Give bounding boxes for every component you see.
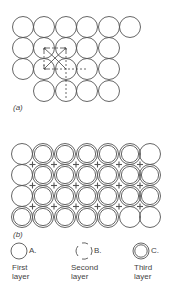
- sphere: [56, 17, 77, 38]
- sphere: [120, 17, 141, 38]
- legend-c-line2: layer: [134, 273, 151, 281]
- third-layer-sphere: [120, 186, 141, 207]
- legend-a-letter: A.: [29, 247, 37, 255]
- first-layer-sphere: [120, 207, 141, 228]
- legend-b-line1: Second: [71, 264, 98, 272]
- sphere: [77, 81, 98, 102]
- sphere: [99, 38, 120, 59]
- sphere: [56, 81, 77, 102]
- sphere: [99, 81, 120, 102]
- sphere: [13, 59, 34, 80]
- third-layer-sphere: [55, 186, 76, 207]
- third-layer-sphere: [120, 165, 141, 186]
- first-layer-sphere: [12, 186, 33, 207]
- sphere: [99, 59, 120, 80]
- third-layer-sphere: [98, 144, 119, 165]
- first-layer-sphere: [140, 207, 161, 228]
- legend-c-line1: Third: [134, 264, 152, 272]
- third-layer-sphere: [33, 144, 54, 165]
- part-b-label: (b): [13, 231, 23, 239]
- sphere: [34, 17, 55, 38]
- third-layer-icon: [133, 243, 149, 259]
- third-layer-sphere: [120, 144, 141, 165]
- third-layer-sphere: [140, 186, 161, 207]
- third-layer-sphere: [98, 165, 119, 186]
- third-layer-sphere: [33, 207, 54, 228]
- third-layer-sphere: [55, 207, 76, 228]
- legend-c-letter: C.: [151, 247, 159, 255]
- third-layer-sphere: [33, 165, 54, 186]
- sphere: [13, 17, 34, 38]
- sphere: [77, 38, 98, 59]
- third-layer-sphere: [77, 165, 98, 186]
- part-a-direction-arrows: [44, 48, 88, 98]
- sphere: [77, 59, 98, 80]
- first-layer-sphere: [140, 144, 161, 165]
- third-layer-sphere: [98, 207, 119, 228]
- second-layer-icon: [76, 243, 92, 259]
- sphere: [99, 17, 120, 38]
- third-layer-sphere: [77, 207, 98, 228]
- third-layer-sphere: [98, 186, 119, 207]
- third-layer-sphere: [77, 186, 98, 207]
- third-layer-sphere: [12, 207, 33, 228]
- legend-b-letter: B.: [94, 247, 102, 255]
- sphere: [13, 38, 34, 59]
- first-layer-sphere: [12, 144, 33, 165]
- third-layer-sphere: [55, 144, 76, 165]
- sphere: [34, 81, 55, 102]
- legend-a-line1: First: [12, 264, 28, 272]
- third-layer-sphere: [33, 186, 54, 207]
- part-a-label: (a): [13, 104, 23, 112]
- third-layer-sphere: [55, 165, 76, 186]
- third-layer-sphere: [140, 165, 161, 186]
- legend-a-line2: layer: [12, 273, 29, 281]
- third-layer-sphere: [77, 144, 98, 165]
- part-b-packed-layers: [12, 144, 161, 228]
- first-layer-sphere: [12, 165, 33, 186]
- legend-b-line2: layer: [71, 273, 88, 281]
- sphere: [77, 17, 98, 38]
- part-a-square-layer: [13, 17, 141, 102]
- close-packing-diagram: [0, 0, 172, 302]
- first-layer-icon: [11, 243, 27, 259]
